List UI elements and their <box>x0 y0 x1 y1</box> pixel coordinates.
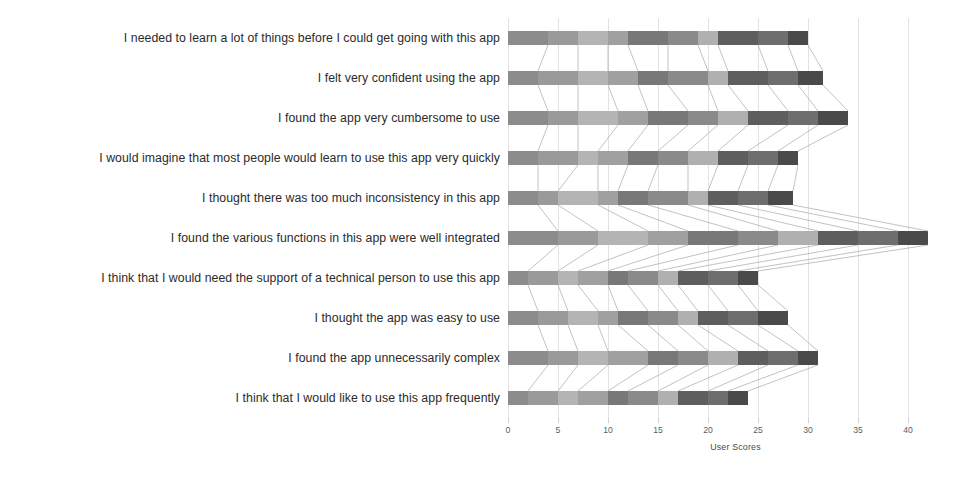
bar-row <box>508 271 758 285</box>
bar-segment <box>678 271 708 285</box>
bar-segment <box>798 351 818 365</box>
bar-segment <box>718 31 758 45</box>
bar-segment <box>648 311 678 325</box>
category-label: I thought the app was easy to use <box>20 311 500 325</box>
bar-segment <box>798 71 823 85</box>
bar-segment <box>688 191 708 205</box>
bar-segment <box>618 111 648 125</box>
bar-segment <box>658 271 678 285</box>
bar-segment <box>708 351 738 365</box>
bar-segment <box>628 31 668 45</box>
category-label: I found the app very cumbersome to use <box>20 111 500 125</box>
x-tick-mark <box>758 418 759 423</box>
sus-stacked-bar-chart: I needed to learn a lot of things before… <box>0 0 967 480</box>
bar-segment <box>648 111 688 125</box>
bar-segment <box>578 391 608 405</box>
x-tick-mark <box>908 418 909 423</box>
bar-row <box>508 71 823 85</box>
bar-segment <box>538 311 568 325</box>
bar-segment <box>768 71 798 85</box>
bar-segment <box>648 351 678 365</box>
bar-segment <box>618 191 648 205</box>
bar-segment <box>598 191 618 205</box>
bar-segment <box>758 311 788 325</box>
bar-segment <box>508 111 548 125</box>
bar-segment <box>608 71 638 85</box>
bar-segment <box>698 311 728 325</box>
bar-row <box>508 231 928 245</box>
bar-segment <box>508 351 548 365</box>
bar-segment <box>718 111 748 125</box>
bar-segment <box>738 351 768 365</box>
bar-segment <box>818 111 848 125</box>
bar-segment <box>778 231 818 245</box>
bar-segment <box>608 31 628 45</box>
bar-segment <box>548 31 578 45</box>
bar-segment <box>528 391 558 405</box>
bar-segment <box>538 71 578 85</box>
bar-segment <box>898 231 928 245</box>
bar-segment <box>688 111 718 125</box>
bar-row <box>508 111 848 125</box>
bar-segment <box>788 111 818 125</box>
category-labels: I needed to learn a lot of things before… <box>18 18 500 418</box>
bar-segment <box>508 271 528 285</box>
bar-segment <box>758 31 788 45</box>
x-tick-mark <box>508 418 509 423</box>
x-tick-label: 35 <box>853 425 863 435</box>
category-label: I felt very confident using the app <box>20 71 500 85</box>
bar-segment <box>548 111 578 125</box>
bar-segment <box>688 231 738 245</box>
x-tick-label: 30 <box>803 425 813 435</box>
bar-segment <box>748 111 788 125</box>
bar-segment <box>678 351 708 365</box>
bar-segment <box>508 391 528 405</box>
bar-segment <box>578 271 608 285</box>
gridline-40 <box>908 18 909 418</box>
x-axis-title: User Scores <box>508 442 963 452</box>
bar-segment <box>578 71 608 85</box>
bar-segment <box>708 71 728 85</box>
bar-segment <box>788 31 808 45</box>
bar-segment <box>658 391 678 405</box>
bar-segment <box>618 311 648 325</box>
category-label: I thought there was too much inconsisten… <box>20 191 500 205</box>
bar-segment <box>688 151 718 165</box>
bar-segment <box>508 231 558 245</box>
bar-segment <box>738 231 778 245</box>
bar-segment <box>538 151 578 165</box>
x-tick-label: 25 <box>753 425 763 435</box>
x-tick-label: 5 <box>556 425 561 435</box>
bar-segment <box>548 351 578 365</box>
bar-segment <box>628 271 658 285</box>
bar-segment <box>598 231 648 245</box>
bar-segment <box>818 231 858 245</box>
bar-segment <box>678 311 698 325</box>
bar-segment <box>708 391 728 405</box>
category-label: I think that I would need the support of… <box>20 271 500 285</box>
bar-segment <box>558 231 598 245</box>
bar-segment <box>528 271 558 285</box>
bar-row <box>508 151 798 165</box>
bar-segment <box>538 191 558 205</box>
bar-segment <box>578 111 618 125</box>
bar-segment <box>558 191 598 205</box>
x-tick-label: 10 <box>603 425 613 435</box>
bar-segment <box>578 31 608 45</box>
bar-segment <box>658 151 688 165</box>
bar-segment <box>738 191 768 205</box>
bar-row <box>508 191 793 205</box>
bar-segment <box>508 311 538 325</box>
bar-segment <box>668 71 708 85</box>
bar-segment <box>598 151 628 165</box>
x-tick-label: 15 <box>653 425 663 435</box>
bar-segment <box>608 351 648 365</box>
bar-segment <box>628 391 658 405</box>
bar-segment <box>728 311 758 325</box>
bar-segment <box>728 71 768 85</box>
bar-segment <box>708 271 738 285</box>
bar-segment <box>508 71 538 85</box>
bar-segment <box>648 191 688 205</box>
bar-segment <box>558 391 578 405</box>
x-tick-mark <box>808 418 809 423</box>
